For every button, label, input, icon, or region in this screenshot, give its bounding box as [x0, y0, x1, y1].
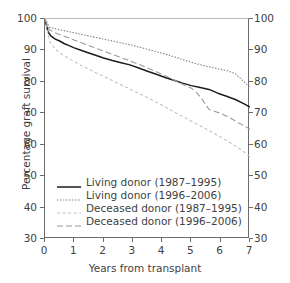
- y-axis-label-right-40: 40: [254, 202, 280, 212]
- y-axis-tick-left-60: [40, 144, 44, 145]
- y-axis-label-right-70: 70: [254, 107, 280, 117]
- x-axis-label-4: 4: [151, 245, 171, 255]
- legend-line-sample-icon: [57, 216, 81, 226]
- y-axis-label-left-30: 30: [11, 233, 37, 243]
- y-axis-label-right-50: 50: [254, 170, 280, 180]
- x-axis-tick-5: [190, 238, 191, 242]
- x-axis-tick-1: [73, 238, 74, 242]
- y-axis-tick-left-80: [40, 81, 44, 82]
- legend-item-3[interactable]: Deceased donor (1996–2006): [57, 214, 242, 227]
- series-line-2: [45, 19, 250, 157]
- legend-item-label: Living donor (1987–1995): [86, 176, 221, 188]
- y-axis-tick-left-100: [40, 18, 44, 19]
- x-axis-tick-2: [103, 238, 104, 242]
- x-axis-tick-3: [132, 238, 133, 242]
- x-axis-tick-6: [220, 238, 221, 242]
- legend-item-0[interactable]: Living donor (1987–1995): [57, 175, 242, 188]
- legend-item-label: Living donor (1996–2006): [86, 189, 221, 201]
- x-axis-label-7: 7: [239, 245, 259, 255]
- x-axis-label-1: 1: [63, 245, 83, 255]
- y-axis-tick-right-40: [249, 207, 253, 208]
- y-axis-tick-right-80: [249, 81, 253, 82]
- x-axis-label-5: 5: [180, 245, 200, 255]
- y-axis-title: Percentage graft survival: [20, 44, 32, 204]
- y-axis-tick-left-70: [40, 112, 44, 113]
- y-axis-label-right-100: 100: [254, 13, 280, 23]
- legend: Living donor (1987–1995)Living donor (19…: [57, 175, 242, 227]
- y-axis-tick-right-70: [249, 112, 253, 113]
- legend-item-label: Deceased donor (1987–1995): [86, 202, 242, 214]
- x-axis-tick-7: [249, 238, 250, 242]
- y-axis-tick-right-100: [249, 18, 253, 19]
- x-axis-label-2: 2: [93, 245, 113, 255]
- y-axis-tick-right-60: [249, 144, 253, 145]
- legend-item-2[interactable]: Deceased donor (1987–1995): [57, 201, 242, 214]
- x-axis-label-0: 0: [34, 245, 54, 255]
- series-line-3: [45, 19, 250, 129]
- legend-item-label: Deceased donor (1996–2006): [86, 215, 242, 227]
- y-axis-label-right-90: 90: [254, 44, 280, 54]
- y-axis-label-right-60: 60: [254, 139, 280, 149]
- series-line-1: [45, 19, 250, 88]
- x-axis-label-3: 3: [122, 245, 142, 255]
- figure-container: 3030404050506060707080809090100100012345…: [0, 0, 290, 283]
- y-axis-tick-left-40: [40, 207, 44, 208]
- legend-line-sample-icon: [57, 190, 81, 200]
- figure-caption: [6, 276, 286, 283]
- y-axis-label-left-100: 100: [11, 13, 37, 23]
- x-axis-title: Years from transplant: [0, 262, 290, 274]
- y-axis-label-right-80: 80: [254, 76, 280, 86]
- legend-line-sample-icon: [57, 203, 81, 213]
- legend-line-sample-icon: [57, 177, 81, 187]
- y-axis-tick-left-90: [40, 49, 44, 50]
- x-axis-tick-4: [161, 238, 162, 242]
- legend-item-1[interactable]: Living donor (1996–2006): [57, 188, 242, 201]
- y-axis-label-right-30: 30: [254, 233, 280, 243]
- y-axis-tick-right-50: [249, 175, 253, 176]
- x-axis-label-6: 6: [210, 245, 230, 255]
- x-axis-tick-0: [44, 238, 45, 242]
- y-axis-tick-left-50: [40, 175, 44, 176]
- y-axis-tick-right-90: [249, 49, 253, 50]
